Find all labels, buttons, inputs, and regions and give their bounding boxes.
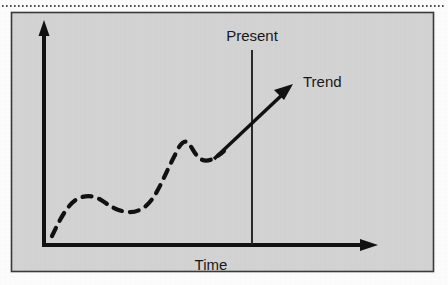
scanned-page: Present Trend Time	[0, 0, 448, 285]
figure-diagram: Present Trend Time	[0, 0, 448, 285]
figure-frame-rect	[12, 13, 434, 272]
time-axis-label: Time	[195, 256, 228, 273]
trend-label: Trend	[303, 73, 342, 90]
figure-frame	[12, 13, 434, 272]
present-label: Present	[226, 27, 279, 44]
